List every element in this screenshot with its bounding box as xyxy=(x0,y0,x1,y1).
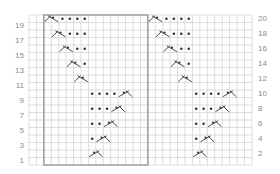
row-label: 2 xyxy=(258,150,262,158)
purl-stitch-icon xyxy=(202,107,205,110)
purl-stitch-icon xyxy=(173,32,176,35)
cross-dot-icon xyxy=(197,152,199,154)
cross-dot-icon xyxy=(93,152,95,154)
row-label: 3 xyxy=(4,142,24,150)
purl-stitch-icon xyxy=(187,32,190,35)
cross-dot-icon xyxy=(204,137,206,139)
row-label: 19 xyxy=(4,22,24,30)
cross-dot-icon xyxy=(178,62,180,64)
cross-dot-icon xyxy=(52,17,54,19)
cross-dot-icon xyxy=(123,92,125,94)
purl-stitch-icon xyxy=(113,92,116,95)
purl-stitch-icon xyxy=(83,62,86,65)
row-label: 7 xyxy=(4,112,24,120)
purl-stitch-icon xyxy=(195,92,198,95)
purl-stitch-icon xyxy=(83,17,86,20)
right-cable-cross-icon xyxy=(230,91,236,97)
purl-stitch-icon xyxy=(173,17,176,20)
purl-stitch-icon xyxy=(195,137,198,140)
row-label: 17 xyxy=(4,37,24,45)
row-label: 18 xyxy=(258,30,267,38)
right-cable-cross-icon xyxy=(201,151,207,157)
purl-stitch-icon xyxy=(61,17,64,20)
row-label: 10 xyxy=(258,90,267,98)
cross-dot-icon xyxy=(171,47,173,49)
purl-stitch-icon xyxy=(180,32,183,35)
purl-stitch-icon xyxy=(195,107,198,110)
cross-dot-icon xyxy=(156,17,158,19)
purl-stitch-icon xyxy=(76,47,79,50)
row-label: 12 xyxy=(258,75,267,83)
purl-stitch-icon xyxy=(180,47,183,50)
purl-stitch-icon xyxy=(91,92,94,95)
cross-dot-icon xyxy=(67,47,69,49)
purl-stitch-icon xyxy=(91,122,94,125)
purl-stitch-icon xyxy=(76,32,79,35)
right-cable-cross-icon xyxy=(97,151,103,157)
purl-stitch-icon xyxy=(210,92,213,95)
right-cable-cross-icon xyxy=(223,106,229,112)
cross-dot-icon xyxy=(115,107,117,109)
right-cable-cross-icon xyxy=(126,91,132,97)
row-label: 6 xyxy=(258,120,262,128)
row-label: 15 xyxy=(4,52,24,60)
purl-stitch-icon xyxy=(165,17,168,20)
knitting-chart: 191715131197531 2018161412108642 xyxy=(0,0,280,174)
right-cable-cross-icon xyxy=(119,106,125,112)
purl-stitch-icon xyxy=(91,107,94,110)
purl-stitch-icon xyxy=(202,92,205,95)
cross-dot-icon xyxy=(212,122,214,124)
purl-stitch-icon xyxy=(187,17,190,20)
purl-stitch-icon xyxy=(106,107,109,110)
cross-dot-icon xyxy=(74,62,76,64)
chart-grid xyxy=(0,0,280,174)
cross-dot-icon xyxy=(59,32,61,34)
purl-stitch-icon xyxy=(180,17,183,20)
cross-dot-icon xyxy=(227,92,229,94)
purl-stitch-icon xyxy=(210,107,213,110)
purl-stitch-icon xyxy=(98,122,101,125)
row-label: 13 xyxy=(4,67,24,75)
row-label: 4 xyxy=(258,135,262,143)
row-label: 16 xyxy=(258,45,267,53)
row-label: 8 xyxy=(258,105,262,113)
purl-stitch-icon xyxy=(91,137,94,140)
cross-dot-icon xyxy=(186,77,188,79)
cross-dot-icon xyxy=(108,122,110,124)
row-label: 9 xyxy=(4,97,24,105)
purl-stitch-icon xyxy=(83,32,86,35)
row-label: 11 xyxy=(4,82,24,90)
cross-dot-icon xyxy=(82,77,84,79)
right-cable-cross-icon xyxy=(208,136,214,142)
purl-stitch-icon xyxy=(187,62,190,65)
row-label: 1 xyxy=(4,157,24,165)
purl-stitch-icon xyxy=(202,122,205,125)
cross-dot-icon xyxy=(163,32,165,34)
right-cable-cross-icon xyxy=(215,121,221,127)
row-label: 20 xyxy=(258,15,267,23)
purl-stitch-icon xyxy=(83,47,86,50)
purl-stitch-icon xyxy=(98,92,101,95)
row-label: 14 xyxy=(258,60,267,68)
purl-stitch-icon xyxy=(217,92,220,95)
cross-dot-icon xyxy=(219,107,221,109)
right-cable-cross-icon xyxy=(104,136,110,142)
purl-stitch-icon xyxy=(69,17,72,20)
purl-stitch-icon xyxy=(76,17,79,20)
purl-stitch-icon xyxy=(195,122,198,125)
cross-dot-icon xyxy=(100,137,102,139)
purl-stitch-icon xyxy=(106,92,109,95)
purl-stitch-icon xyxy=(187,47,190,50)
right-cable-cross-icon xyxy=(111,121,117,127)
purl-stitch-icon xyxy=(69,32,72,35)
row-label: 5 xyxy=(4,127,24,135)
purl-stitch-icon xyxy=(98,107,101,110)
